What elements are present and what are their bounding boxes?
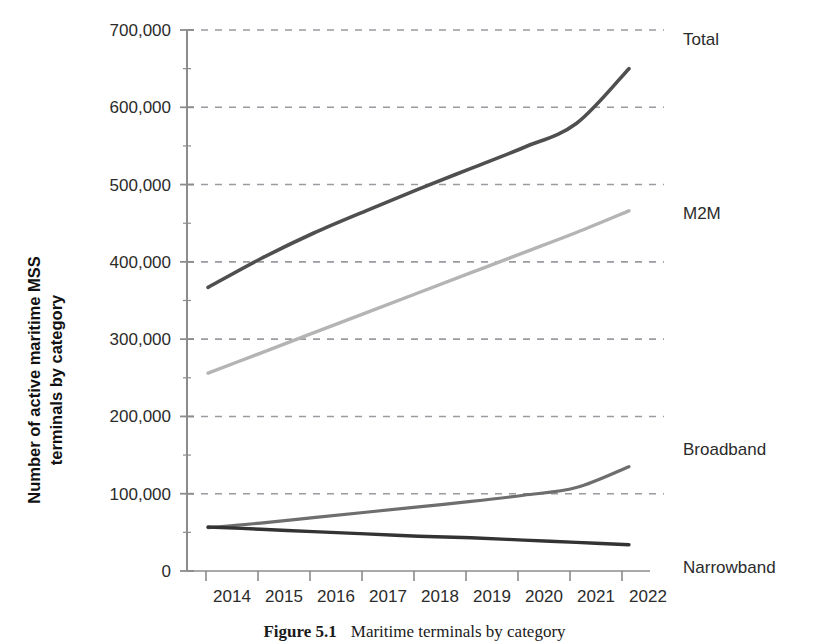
- x-tick-label: 2022: [629, 587, 667, 606]
- y-axis-title: Number of active maritime MSS terminals …: [25, 256, 65, 504]
- figure-caption-label: Figure 5.1: [263, 622, 336, 641]
- axes-group: [187, 30, 650, 571]
- series-label-m2m: M2M: [683, 204, 721, 223]
- y-tick-label: 600,000: [110, 98, 171, 117]
- x-tick-group: [206, 571, 622, 581]
- series-label-narrowband: Narrowband: [683, 558, 776, 577]
- series-line-narrowband: [208, 527, 629, 545]
- y-tick-label: 300,000: [110, 330, 171, 349]
- y-axis-title-line1: Number of active maritime MSS: [25, 256, 43, 504]
- line-chart: 0100,000200,000300,000400,000500,000600,…: [0, 0, 829, 644]
- series-line-total: [208, 69, 629, 288]
- x-tick-label: 2016: [317, 587, 355, 606]
- series-labels-group: TotalM2MBroadbandNarrowband: [683, 30, 776, 577]
- y-tick-labels-group: 0100,000200,000300,000400,000500,000600,…: [110, 21, 171, 581]
- x-tick-label: 2014: [213, 587, 251, 606]
- x-tick-label: 2019: [473, 587, 511, 606]
- y-tick-label: 200,000: [110, 407, 171, 426]
- y-tick-label: 400,000: [110, 253, 171, 272]
- y-tick-label: 700,000: [110, 21, 171, 40]
- series-label-broadband: Broadband: [683, 440, 766, 459]
- y-axis-title-line2: terminals by category: [47, 294, 65, 465]
- x-tick-labels-group: 201420152016201720182019202020212022: [213, 587, 667, 606]
- y-tick-label: 100,000: [110, 485, 171, 504]
- series-paths-group: [208, 69, 629, 545]
- x-tick-label: 2020: [525, 587, 563, 606]
- x-tick-label: 2017: [369, 587, 407, 606]
- figure-container: 0100,000200,000300,000400,000500,000600,…: [0, 0, 829, 644]
- figure-caption-text: Maritime terminals by category: [351, 622, 566, 641]
- series-line-m2m: [208, 211, 629, 373]
- x-tick-label: 2015: [265, 587, 303, 606]
- figure-caption: Figure 5.1Maritime terminals by category: [0, 622, 829, 642]
- x-tick-label: 2021: [577, 587, 615, 606]
- y-tick-label: 500,000: [110, 176, 171, 195]
- y-tick-label: 0: [162, 562, 171, 581]
- series-label-total: Total: [683, 30, 719, 49]
- x-tick-label: 2018: [421, 587, 459, 606]
- series-line-broadband: [208, 467, 629, 528]
